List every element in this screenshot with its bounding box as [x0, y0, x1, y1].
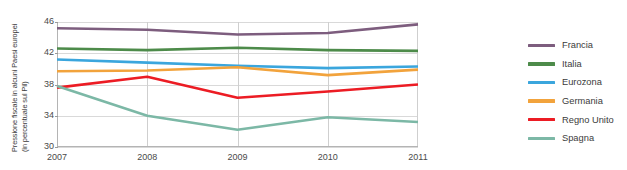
legend-swatch-icon [528, 62, 555, 65]
legend-item-germania[interactable]: Germania [528, 92, 623, 111]
gridline-horizontal [57, 147, 418, 148]
y-axis-tick-label: 46 [34, 16, 54, 26]
y-axis-tick-label: 38 [34, 79, 54, 89]
x-axis-tick-label: 2008 [127, 152, 167, 162]
line-chart-figure: Pressione fiscale in alcuni Paesi europe… [0, 0, 627, 170]
y-axis-tick-label: 34 [34, 110, 54, 120]
legend-item-label: Spagna [562, 133, 594, 143]
legend-item-spagna[interactable]: Spagna [528, 129, 623, 148]
x-axis-tick-label: 2009 [218, 152, 258, 162]
plot-area [57, 22, 418, 147]
series-line-francia [57, 24, 418, 34]
series-line-italia [57, 48, 418, 51]
y-axis-tick-label: 30 [34, 141, 54, 151]
x-axis-tick-label: 2010 [308, 152, 348, 162]
chart-legend: FranciaItaliaEurozonaGermaniaRegno Unito… [528, 36, 623, 148]
y-axis-title: Pressione fiscale in alcuni Paesi europe… [10, 2, 29, 152]
y-axis-title-container: Pressione fiscale in alcuni Paesi europe… [0, 0, 34, 160]
legend-item-label: Francia [562, 40, 593, 50]
legend-swatch-icon [528, 99, 555, 102]
y-axis-tick-mark [55, 147, 58, 148]
legend-item-label: Italia [562, 59, 582, 69]
legend-item-label: Eurozona [562, 77, 602, 87]
legend-swatch-icon [528, 81, 555, 84]
series-line-spagna [57, 86, 418, 130]
series-line-regno-unito [57, 77, 418, 98]
legend-item-italia[interactable]: Italia [528, 55, 623, 74]
legend-item-eurozona[interactable]: Eurozona [528, 73, 623, 92]
legend-swatch-icon [528, 137, 555, 140]
legend-swatch-icon [528, 44, 555, 47]
series-lines [57, 22, 418, 147]
legend-item-label: Regno Unito [562, 115, 614, 125]
y-axis-tick-labels: 4642383430 [30, 22, 54, 147]
y-axis-tick-label: 42 [34, 47, 54, 57]
y-axis-tick-mark [55, 85, 58, 86]
y-axis-tick-mark [55, 22, 58, 23]
legend-item-francia[interactable]: Francia [528, 36, 623, 55]
legend-swatch-icon [528, 118, 555, 121]
x-axis-tick-label: 2007 [37, 152, 77, 162]
legend-item-regno-unito[interactable]: Regno Unito [528, 110, 623, 129]
legend-item-label: Germania [562, 96, 603, 106]
y-axis-tick-mark [55, 116, 58, 117]
y-axis-tick-mark [55, 53, 58, 54]
x-axis-tick-label: 2011 [398, 152, 438, 162]
